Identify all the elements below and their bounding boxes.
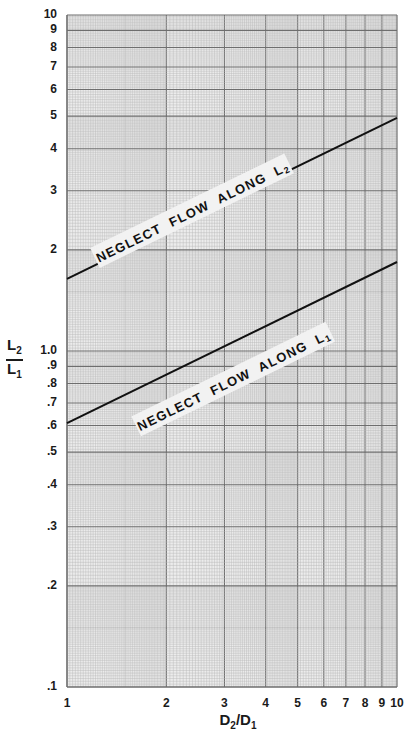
log-log-chart: NEGLECT FLOW ALONG L2NEGLECT FLOW ALONG … — [0, 0, 412, 742]
x-tick-label: 2 — [156, 696, 176, 710]
y-tick-label: 7 — [27, 59, 57, 73]
y-tick-label: .1 — [27, 679, 57, 693]
x-tick-label: 1 — [57, 696, 77, 710]
y-tick-label: .4 — [27, 477, 57, 491]
x-tick-label: 7 — [336, 696, 356, 710]
y-axis-label: L2 L1 — [6, 337, 23, 383]
x-axis-label: D2/D1 — [0, 711, 412, 731]
y-tick-label: .9 — [27, 358, 57, 372]
y-tick-label: .5 — [27, 444, 57, 458]
y-tick-label: .8 — [27, 376, 57, 390]
x-tick-label: 5 — [288, 696, 308, 710]
y-tick-label: 6 — [27, 82, 57, 96]
y-tick-label: .3 — [27, 519, 57, 533]
y-tick-label: 5 — [27, 108, 57, 122]
x-tick-label: 10 — [387, 696, 407, 710]
y-tick-label: 10 — [27, 7, 57, 21]
y-tick-label: 1.0 — [27, 343, 57, 357]
y-tick-label: .2 — [27, 578, 57, 592]
y-tick-label: .7 — [27, 395, 57, 409]
x-tick-label: 3 — [214, 696, 234, 710]
y-tick-label: 9 — [27, 22, 57, 36]
y-tick-label: 4 — [27, 141, 57, 155]
x-tick-label: 6 — [314, 696, 334, 710]
y-tick-label: 3 — [27, 183, 57, 197]
y-tick-label: 2 — [27, 242, 57, 256]
y-tick-label: 8 — [27, 40, 57, 54]
grid-lines — [67, 15, 397, 687]
x-tick-label: 4 — [256, 696, 276, 710]
y-tick-label: .6 — [27, 418, 57, 432]
